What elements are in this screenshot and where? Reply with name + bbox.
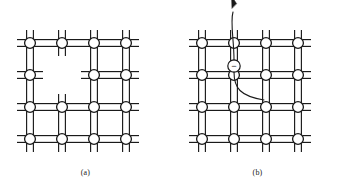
lattice-atom: [25, 102, 36, 113]
bond-layer: [17, 30, 139, 152]
lattice-atom: [57, 102, 68, 113]
panel-a-caption: (a): [0, 168, 171, 177]
lattice-atom: [89, 38, 100, 49]
lattice-atom: [293, 102, 304, 113]
lattice-atom: [57, 134, 68, 145]
arrow-upper-curve: [232, 12, 234, 60]
lattice-atom: [25, 134, 36, 145]
lattice-panel-a: [0, 0, 171, 192]
lattice-atom: [261, 102, 272, 113]
atom-layer: [197, 38, 304, 145]
lattice-atom: [261, 38, 272, 49]
electron-charge-minus: −: [231, 61, 236, 71]
lattice-atom: [25, 70, 36, 81]
free-electron: −: [228, 60, 240, 72]
atom-layer: [25, 38, 132, 145]
lattice-atom: [89, 70, 100, 81]
lattice-atom: [197, 102, 208, 113]
lattice-atom: [197, 134, 208, 145]
lattice-atom: [229, 134, 240, 145]
lattice-atom: [121, 70, 132, 81]
lattice-atom: [261, 134, 272, 145]
lattice-atom: [121, 134, 132, 145]
lattice-atom: [25, 38, 36, 49]
lattice-atom: [121, 102, 132, 113]
lattice-atom: [121, 38, 132, 49]
lattice-atom: [89, 102, 100, 113]
panel-b-caption: (b): [172, 168, 343, 177]
lattice-atom: [293, 134, 304, 145]
lattice-diagram-b: −: [172, 0, 343, 192]
figure-root: − (a) (b): [0, 0, 343, 192]
lattice-atom: [293, 70, 304, 81]
bond-layer: [189, 30, 311, 152]
lattice-atom: [197, 70, 208, 81]
electron-escape-arrow: [229, 0, 264, 100]
lattice-atom: [261, 70, 272, 81]
lattice-atom: [197, 38, 208, 49]
lattice-atom: [89, 134, 100, 145]
lattice-panel-b: −: [172, 0, 343, 192]
arrow-head: [229, 0, 238, 8]
lattice-atom: [293, 38, 304, 49]
lattice-diagram-a: [0, 0, 171, 192]
lattice-atom: [229, 102, 240, 113]
lattice-atom: [57, 38, 68, 49]
